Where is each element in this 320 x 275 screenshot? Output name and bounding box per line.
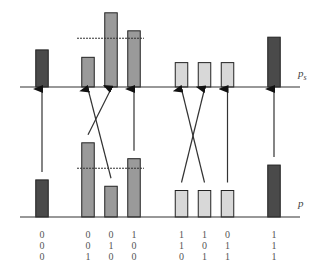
top-axis-label: ps xyxy=(297,67,307,82)
code-bit: 0 xyxy=(132,251,137,262)
code-bit: 0 xyxy=(86,229,91,240)
code-bit: 1 xyxy=(179,240,184,251)
permutation-diagram: ps p 000001010100110101011111 xyxy=(0,0,320,275)
code-bit: 1 xyxy=(272,240,277,251)
code-bit: 1 xyxy=(272,229,277,240)
bottom-bar xyxy=(268,165,281,217)
code-bit: 0 xyxy=(86,240,91,251)
code-bit: 0 xyxy=(40,229,45,240)
code-bit: 0 xyxy=(225,229,230,240)
bottom-bar xyxy=(82,143,95,217)
mapping-arrow xyxy=(88,89,111,135)
code-bit: 0 xyxy=(132,240,137,251)
bottom-bar xyxy=(128,159,141,217)
top-bar xyxy=(36,50,49,87)
bottom-bar xyxy=(36,180,49,217)
top-bar xyxy=(128,31,141,87)
top-bar xyxy=(198,63,211,87)
code-bit: 1 xyxy=(202,251,207,262)
bottom-bar xyxy=(105,186,118,217)
code-bit: 1 xyxy=(225,240,230,251)
top-bar xyxy=(82,57,95,87)
top-bar xyxy=(175,63,188,87)
top-bars-group xyxy=(36,13,281,87)
code-bit: 1 xyxy=(132,229,137,240)
code-bit: 0 xyxy=(109,251,114,262)
bottom-bars-group xyxy=(36,143,281,217)
code-bit: 0 xyxy=(109,229,114,240)
code-bit: 0 xyxy=(179,251,184,262)
code-bit: 1 xyxy=(225,251,230,262)
top-bar xyxy=(105,13,118,87)
code-bit: 1 xyxy=(202,229,207,240)
top-bar xyxy=(221,63,234,87)
code-bit: 0 xyxy=(40,240,45,251)
bottom-axis-label: p xyxy=(297,197,304,209)
code-bit: 1 xyxy=(109,240,114,251)
code-bit: 0 xyxy=(202,240,207,251)
code-bit: 0 xyxy=(40,251,45,262)
bottom-bar xyxy=(221,191,234,218)
bottom-bar xyxy=(198,191,211,218)
code-bit: 1 xyxy=(272,251,277,262)
state-codes-group: 000001010100110101011111 xyxy=(40,229,277,262)
arrows-group xyxy=(42,89,274,183)
top-bar xyxy=(268,37,281,87)
bottom-bar xyxy=(175,191,188,218)
code-bit: 1 xyxy=(179,229,184,240)
code-bit: 1 xyxy=(86,251,91,262)
